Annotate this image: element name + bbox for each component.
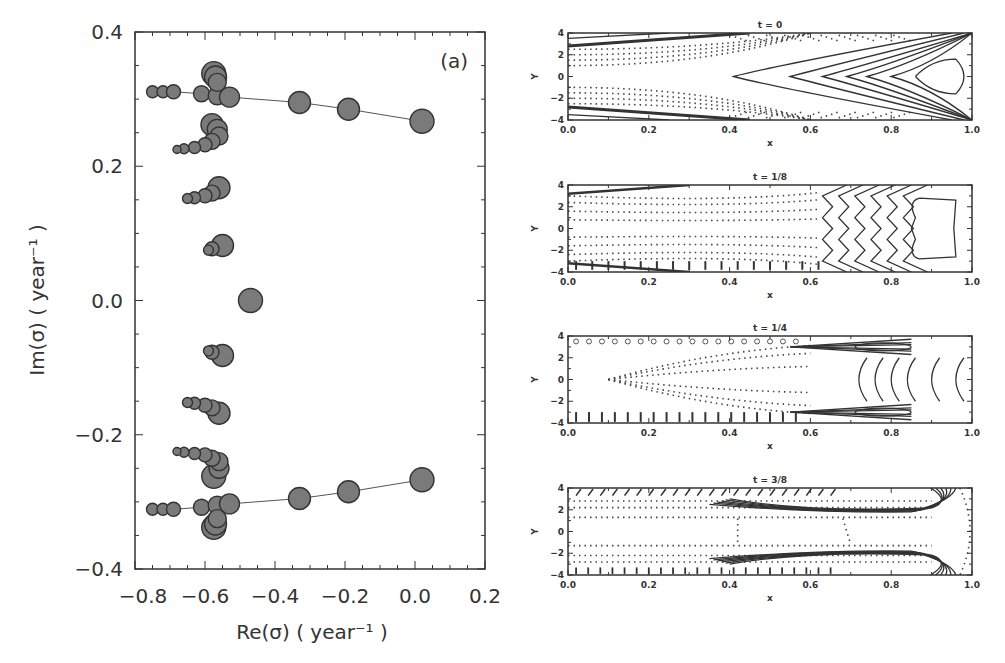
- y-tick-label: 2: [558, 202, 564, 212]
- y-tick-label: −0.4: [74, 557, 123, 581]
- x-tick-label: 0.2: [641, 580, 657, 590]
- x-tick-label: 1.0: [964, 580, 980, 590]
- y-tick-label: −4: [550, 115, 564, 125]
- y-tick-label: 0.2: [91, 154, 123, 178]
- contour-panel-1: t = 00.00.20.40.60.81.0420−2−4xY: [530, 20, 980, 148]
- x-tick-label: 0.4: [722, 580, 738, 590]
- data-point: [183, 398, 193, 408]
- y-tick-label: 2: [558, 50, 564, 60]
- y-tick-label: 2: [558, 505, 564, 515]
- contour-panel-3: t = 1/40.00.20.40.60.81.0420−2−4xY: [530, 323, 980, 451]
- y-axis-label: Y: [530, 528, 540, 536]
- data-point: [173, 145, 181, 153]
- x-tick-label: 0.0: [560, 580, 576, 590]
- x-tick-label: 0.0: [399, 584, 431, 608]
- x-tick-label: −0.8: [119, 584, 168, 608]
- y-axis-label: Im(σ) ( year⁻¹ ): [25, 224, 49, 376]
- y-tick-label: 4: [558, 331, 564, 341]
- x-tick-label: 0.0: [560, 125, 576, 135]
- x-tick-label: 0.0: [560, 428, 576, 438]
- y-tick-label: 0.0: [91, 289, 123, 313]
- panel-title: t = 1/4: [753, 323, 787, 333]
- y-tick-label: 0: [558, 375, 564, 385]
- x-tick-label: 0.6: [802, 428, 818, 438]
- x-tick-label: 0.6: [802, 277, 818, 287]
- x-tick-label: 0.2: [641, 125, 657, 135]
- data-point: [410, 468, 434, 492]
- y-tick-label: −2: [550, 245, 564, 255]
- y-tick-label: −4: [550, 267, 564, 277]
- x-tick-label: 0.8: [883, 580, 899, 590]
- data-point: [194, 86, 210, 102]
- y-tick-label: 4: [558, 28, 564, 38]
- data-point: [173, 448, 181, 456]
- y-tick-label: 4: [558, 180, 564, 190]
- x-axis-label: x: [767, 593, 773, 603]
- x-axis-label: x: [767, 441, 773, 451]
- panel-title: t = 0: [758, 20, 782, 30]
- x-tick-label: 0.4: [722, 277, 738, 287]
- y-tick-label: −2: [550, 396, 564, 406]
- y-tick-label: −4: [550, 570, 564, 580]
- y-tick-label: −0.2: [74, 423, 123, 447]
- panel-label: (a): [440, 49, 468, 73]
- data-point: [189, 448, 201, 460]
- series-upper-branch-connected-: [147, 85, 435, 134]
- y-tick-label: 0: [558, 527, 564, 537]
- x-tick-label: 0.6: [802, 580, 818, 590]
- y-tick-label: −2: [550, 93, 564, 103]
- x-axis-label: x: [767, 138, 773, 148]
- data-point: [410, 109, 434, 133]
- y-tick-label: 0.4: [91, 20, 123, 44]
- contour-panel-4: t = 3/80.00.20.40.60.81.0420−2−4xY: [530, 475, 980, 603]
- y-tick-label: 0: [558, 224, 564, 234]
- x-tick-label: 0.4: [722, 125, 738, 135]
- x-axis-label: x: [767, 290, 773, 300]
- x-tick-label: 0.4: [722, 428, 738, 438]
- figure: −0.8−0.6−0.4−0.20.00.20.40.20.0−0.2−0.4R…: [0, 0, 1005, 663]
- data-point: [338, 481, 360, 503]
- eigenvalue-scatter-plot: −0.8−0.6−0.4−0.20.00.20.40.20.0−0.2−0.4R…: [25, 20, 501, 644]
- data-point: [338, 98, 360, 120]
- y-axis-label: Y: [530, 225, 540, 233]
- y-tick-label: 2: [558, 353, 564, 363]
- series-clusters: [173, 62, 263, 540]
- y-tick-label: 0: [558, 72, 564, 82]
- x-tick-label: 0.2: [469, 584, 501, 608]
- x-tick-label: 0.8: [883, 277, 899, 287]
- contour-panels: t = 00.00.20.40.60.81.0420−2−4xYt = 1/80…: [530, 20, 980, 603]
- data-point: [204, 245, 214, 255]
- panel-title: t = 1/8: [753, 172, 787, 182]
- data-point: [194, 499, 210, 515]
- x-axis-label: Re(σ) ( year⁻¹ ): [236, 620, 387, 644]
- data-point: [204, 346, 214, 356]
- x-tick-label: 1.0: [964, 125, 980, 135]
- x-tick-label: −0.2: [321, 584, 370, 608]
- x-tick-label: −0.6: [181, 584, 230, 608]
- data-point: [167, 85, 181, 99]
- x-tick-label: 0.8: [883, 125, 899, 135]
- x-tick-label: −0.4: [251, 584, 300, 608]
- data-point: [289, 91, 311, 113]
- data-point: [167, 502, 181, 516]
- y-axis-label: Y: [530, 73, 540, 81]
- data-point: [208, 510, 226, 528]
- contour-panel-2: t = 1/80.00.20.40.60.81.0420−2−4xY: [530, 172, 980, 300]
- y-axis-label: Y: [530, 376, 540, 384]
- y-tick-label: 4: [558, 483, 564, 493]
- x-tick-label: 0.6: [802, 125, 818, 135]
- series-lower-branch-connected-: [147, 468, 435, 517]
- x-tick-label: 1.0: [964, 277, 980, 287]
- y-tick-label: −4: [550, 418, 564, 428]
- data-point: [208, 73, 226, 91]
- data-point: [239, 289, 263, 313]
- x-tick-label: 0.2: [641, 277, 657, 287]
- plot-frame: [135, 32, 485, 569]
- panel-title: t = 3/8: [753, 475, 787, 485]
- x-tick-label: 0.0: [560, 277, 576, 287]
- x-tick-label: 0.8: [883, 428, 899, 438]
- data-point: [183, 193, 193, 203]
- x-tick-label: 1.0: [964, 428, 980, 438]
- x-tick-label: 0.2: [641, 428, 657, 438]
- data-point: [289, 488, 311, 510]
